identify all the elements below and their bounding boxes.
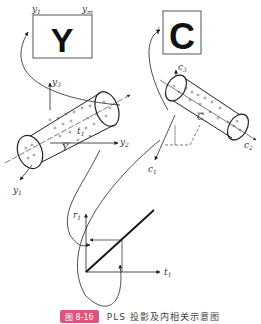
svg-text:c1: c1 bbox=[148, 164, 157, 175]
figure-number-badge: 图 8-16 bbox=[60, 310, 99, 323]
svg-text:t1: t1 bbox=[77, 126, 84, 137]
svg-text:c3: c3 bbox=[178, 62, 187, 73]
svg-text:y3: y3 bbox=[51, 77, 61, 88]
left-cylinder: y3 y2 y1 t1 Y bbox=[5, 77, 130, 196]
svg-text:C: C bbox=[169, 16, 195, 57]
pls-diagram: Y y1 ym C i y3 y2 y1 t1 Y bbox=[0, 0, 261, 324]
inner-relation-plot: r1 t1 bbox=[73, 210, 171, 278]
right-cylinder: c3 c2 c1 C bbox=[148, 62, 256, 175]
y-matrix-box: Y y1 ym bbox=[31, 4, 93, 59]
svg-text:C: C bbox=[197, 112, 204, 122]
svg-text:ym: ym bbox=[81, 4, 93, 15]
projection-curve-r bbox=[67, 150, 100, 246]
figure-caption: 图 8-16 PLS 投影及内相关示意图 bbox=[60, 309, 220, 323]
c-matrix-box: C i bbox=[157, 11, 201, 57]
svg-text:y1: y1 bbox=[12, 185, 22, 196]
svg-text:t1: t1 bbox=[164, 267, 171, 278]
svg-text:c2: c2 bbox=[244, 140, 253, 151]
svg-text:Y: Y bbox=[62, 143, 69, 153]
figure-caption-text: PLS 投影及内相关示意图 bbox=[107, 310, 220, 323]
svg-text:r1: r1 bbox=[73, 210, 81, 221]
svg-text:Y: Y bbox=[51, 21, 74, 59]
svg-text:y1: y1 bbox=[31, 4, 41, 15]
svg-text:y2: y2 bbox=[119, 137, 129, 148]
